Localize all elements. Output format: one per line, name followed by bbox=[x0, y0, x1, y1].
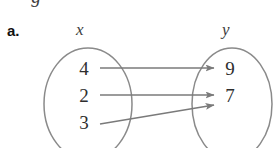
arrow-3-to-7 bbox=[100, 105, 214, 124]
domain-element: 2 bbox=[76, 85, 92, 107]
range-element: 7 bbox=[222, 85, 238, 107]
domain-element: 3 bbox=[76, 112, 92, 134]
mapping-diagram-figure: g a. x y 4 2 3 9 7 bbox=[0, 0, 277, 148]
domain-element: 4 bbox=[76, 58, 92, 80]
range-element: 9 bbox=[222, 58, 238, 80]
